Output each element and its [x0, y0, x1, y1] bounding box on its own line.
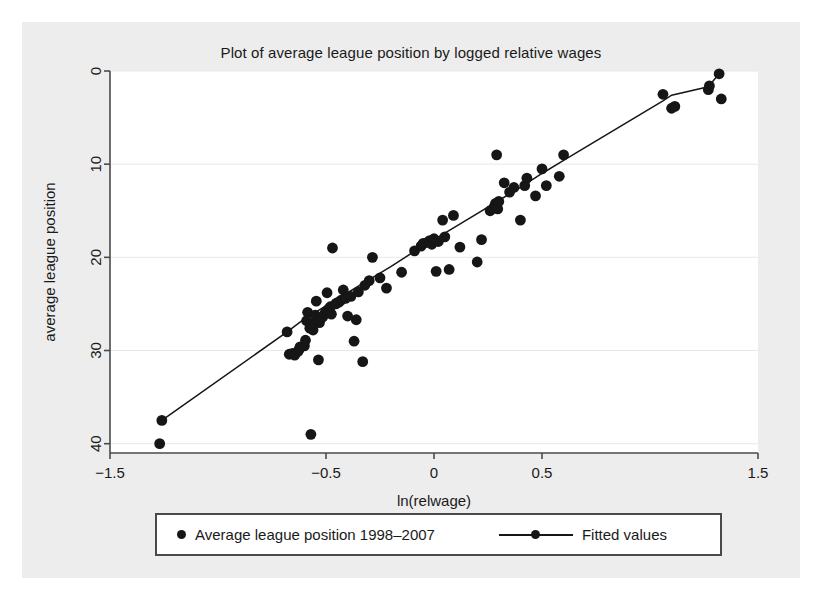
svg-text:−1.5: −1.5 [95, 464, 125, 481]
legend-label-fitted: Fitted values [582, 526, 667, 543]
plot-panel [110, 71, 758, 453]
svg-text:20: 20 [87, 249, 104, 266]
svg-text:40: 40 [87, 435, 104, 452]
y-axis-label: average league position [41, 182, 58, 341]
legend-marker-dot-icon [177, 530, 186, 539]
scatter-chart[interactable]: −1.5−0.500.51.5 010203040 ln(relwage) av… [22, 22, 800, 578]
svg-text:0: 0 [87, 67, 104, 75]
svg-text:0.5: 0.5 [532, 464, 553, 481]
plot-area-wrapper: −1.5−0.500.51.5 010203040 ln(relwage) av… [22, 22, 800, 578]
legend-label-scatter: Average league position 1998–2007 [195, 526, 435, 543]
legend-entry-scatter[interactable]: Average league position 1998–2007 [177, 526, 435, 543]
legend-entry-fitted[interactable]: Fitted values [499, 526, 667, 543]
x-axis-label: ln(relwage) [397, 492, 471, 509]
svg-text:0: 0 [430, 464, 438, 481]
x-axis-ticks: −1.5−0.500.51.5 [95, 453, 768, 481]
svg-text:1.5: 1.5 [748, 464, 769, 481]
figure-canvas: Plot of average league position by logge… [22, 22, 800, 578]
chart-legend: Average league position 1998–2007 Fitted… [155, 513, 722, 556]
svg-text:−0.5: −0.5 [311, 464, 341, 481]
legend-marker-line-icon [499, 530, 573, 539]
svg-text:30: 30 [87, 342, 104, 359]
svg-text:10: 10 [87, 156, 104, 173]
legend-marker-dot-icon [531, 530, 540, 539]
y-axis-ticks: 010203040 [87, 67, 110, 452]
